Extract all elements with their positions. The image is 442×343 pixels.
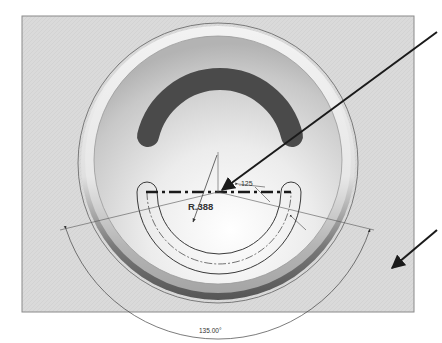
radius-dimension-label: R.388 [188,201,213,212]
angle-dimension-label: 135.00° [199,327,222,334]
width-dimension-label: .125 [239,180,253,187]
cad-diagram: R.388 .125 135.00° [0,0,442,343]
